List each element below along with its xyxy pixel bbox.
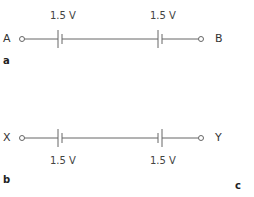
terminal-y-node <box>199 136 204 141</box>
terminal-label-a: A <box>3 32 11 45</box>
panel-label-a: a <box>3 55 10 66</box>
circuit-b <box>20 129 204 147</box>
circuit-diagrams <box>0 0 254 197</box>
cell-voltage-label: 1.5 V <box>150 155 176 166</box>
terminal-a-node <box>20 37 25 42</box>
cell-voltage-label: 1.5 V <box>150 10 176 21</box>
terminal-label-x: X <box>3 131 11 144</box>
circuit-a <box>20 30 204 48</box>
panel-label-b: b <box>3 174 10 185</box>
cell-voltage-label: 1.5 V <box>50 155 76 166</box>
terminal-label-b: B <box>215 32 223 45</box>
terminal-label-y: Y <box>215 131 222 144</box>
cell-voltage-label: 1.5 V <box>50 10 76 21</box>
terminal-b-node <box>199 37 204 42</box>
panel-label-c: c <box>235 180 241 191</box>
terminal-x-node <box>20 136 25 141</box>
